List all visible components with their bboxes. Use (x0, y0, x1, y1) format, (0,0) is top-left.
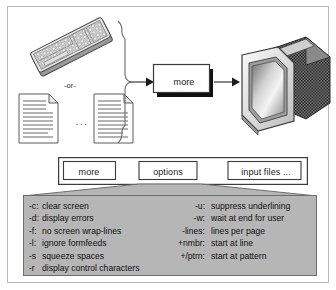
input-or-label: -or- (53, 80, 87, 91)
option-flag: -l: (29, 237, 42, 249)
option-entry: +/ptrn: start at pattern (171, 250, 316, 262)
crt-monitor-icon (232, 35, 334, 143)
process-label: more (158, 69, 210, 95)
signature-options: options (143, 164, 193, 180)
signature-command: more (67, 164, 111, 180)
option-entry: -u: suppress underlining (171, 200, 316, 212)
option-entry: -d: display errors (24, 212, 171, 224)
option-desc: lines per page (211, 225, 265, 237)
option-desc: suppress underlining (211, 200, 290, 212)
option-desc: no screen wrap-lines (42, 225, 121, 237)
option-flag: -f: (29, 225, 42, 237)
option-flag: -lines: (171, 225, 211, 237)
option-desc: display errors (42, 212, 94, 224)
signature-files: input files ... (232, 164, 300, 180)
options-panel: -c: clear screen -u: suppress underlinin… (23, 195, 317, 276)
options-row: -l: ignore formfeeds +nmbr: start at lin… (24, 237, 316, 249)
input-ellipsis: ... (72, 115, 92, 127)
options-row: -f: no screen wrap-lines -lines: lines p… (24, 225, 316, 237)
option-desc: start at line (211, 237, 253, 249)
option-entry: -s squeeze spaces (24, 250, 171, 262)
options-row: -r display control characters (24, 262, 316, 274)
option-entry: +nmbr: start at line (171, 237, 316, 249)
option-flag: -d: (29, 212, 42, 224)
document-icon (18, 93, 60, 145)
option-flag: -w: (171, 212, 211, 224)
option-desc: ignore formfeeds (42, 237, 107, 249)
option-entry: -f: no screen wrap-lines (24, 225, 171, 237)
figure-root: -or- ... (0, 0, 336, 290)
option-flag: +/ptrn: (171, 250, 211, 262)
option-entry: -lines: lines per page (171, 225, 316, 237)
option-desc: start at pattern (211, 250, 266, 262)
option-flag: -u: (171, 200, 211, 212)
option-desc: wait at end for user (211, 212, 284, 224)
figure-frame: -or- ... (7, 6, 329, 283)
option-flag: -r (29, 262, 42, 274)
option-entry: -r display control characters (24, 262, 171, 274)
options-row: -s squeeze spaces +/ptrn: start at patte… (24, 250, 316, 262)
option-flag: -c: (29, 200, 42, 212)
option-desc: squeeze spaces (42, 250, 104, 262)
option-entry: -l: ignore formfeeds (24, 237, 171, 249)
option-flag: -s (29, 250, 42, 262)
options-row: -c: clear screen -u: suppress underlinin… (24, 200, 316, 212)
options-row: -d: display errors -w: wait at end for u… (24, 212, 316, 224)
option-desc: display control characters (42, 262, 139, 274)
option-entry: -w: wait at end for user (171, 212, 316, 224)
option-entry: -c: clear screen (24, 200, 171, 212)
option-desc: clear screen (42, 200, 89, 212)
keyboard-icon (26, 17, 118, 79)
option-flag: +nmbr: (171, 237, 211, 249)
